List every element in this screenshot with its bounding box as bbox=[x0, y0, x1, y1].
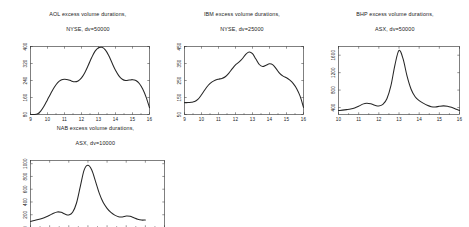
y-tick-label: 80 bbox=[23, 112, 28, 118]
y-tick-label: 450 bbox=[177, 42, 182, 50]
panel-ibm-xticklabels: 910111213141516 bbox=[183, 117, 306, 122]
panel-nab-ticks bbox=[31, 161, 165, 227]
y-tick-label: 1600 bbox=[331, 50, 336, 61]
y-tick-label: 800 bbox=[23, 172, 28, 180]
x-tick-label: 9 bbox=[183, 117, 186, 122]
x-tick-label: 13 bbox=[396, 117, 402, 122]
panel-nab-yticklabels: 02004006008001000 bbox=[23, 158, 28, 227]
panel-aol-axes-frame bbox=[31, 47, 150, 115]
x-tick-label: 11 bbox=[216, 117, 221, 122]
y-tick-label: 1200 bbox=[331, 67, 336, 78]
y-tick-label: 0 bbox=[23, 226, 28, 227]
panel-bhp-yticklabels: 40080012001600 bbox=[331, 50, 336, 112]
panel-aol-series-line bbox=[31, 47, 150, 114]
panel-ibm-yticklabels: 50150250350450 bbox=[177, 42, 182, 117]
panel-nab-title-line1: NAB excess volume durations, bbox=[57, 125, 135, 131]
panel-ibm-title-line1: IBM excess volume durations, bbox=[204, 11, 280, 17]
x-tick-label: 12 bbox=[233, 117, 239, 122]
panel-bhp-plot: 40080012001600 10111213141516 bbox=[314, 40, 466, 132]
y-tick-label: 240 bbox=[23, 76, 28, 84]
y-tick-label: 400 bbox=[23, 42, 28, 50]
x-tick-label: 14 bbox=[417, 117, 423, 122]
x-tick-label: 13 bbox=[250, 117, 256, 122]
y-tick-label: 800 bbox=[331, 86, 336, 94]
panel-bhp-title-line2: ASX, dv=50000 bbox=[375, 26, 415, 32]
y-tick-label: 250 bbox=[177, 76, 182, 84]
x-tick-label: 12 bbox=[376, 117, 382, 122]
panel-bhp-title-line1: BHP excess volume durations, bbox=[356, 11, 434, 17]
panel-ibm: IBM excess volume durations, NYSE, dv=25… bbox=[162, 4, 312, 114]
panel-aol-title-line2: NYSE, dv=50000 bbox=[66, 26, 110, 32]
panel-nab: NAB excess volume durations, ASX, dv=100… bbox=[8, 118, 173, 226]
panel-bhp-svg: 40080012001600 10111213141516 bbox=[314, 40, 466, 132]
x-tick-label: 16 bbox=[457, 117, 463, 122]
x-tick-label: 14 bbox=[267, 117, 273, 122]
panel-nab-axes-frame bbox=[31, 161, 165, 227]
panel-nab-series-line bbox=[31, 165, 146, 221]
panel-ibm-series-line bbox=[185, 52, 304, 107]
panel-bhp-title: BHP excess volume durations, ASX, dv=500… bbox=[314, 4, 466, 40]
panel-ibm-svg: 50150250350450 910111213141516 bbox=[162, 40, 312, 132]
panel-nab-plot: 02004006008001000 1011121314151617 bbox=[8, 154, 173, 227]
y-tick-label: 160 bbox=[23, 93, 28, 101]
x-tick-label: 16 bbox=[301, 117, 307, 122]
panel-ibm-title-line2: NYSE, dv=25000 bbox=[220, 26, 264, 32]
panel-aol-ticks bbox=[31, 47, 150, 115]
y-tick-label: 1000 bbox=[23, 158, 28, 169]
panel-nab-title-line2: ASX, dv=10000 bbox=[76, 140, 116, 146]
y-tick-label: 320 bbox=[23, 59, 28, 67]
y-tick-label: 150 bbox=[177, 93, 182, 101]
x-tick-label: 11 bbox=[356, 117, 361, 122]
x-tick-label: 15 bbox=[437, 117, 443, 122]
y-tick-label: 200 bbox=[23, 210, 28, 218]
figure-canvas: AOL excess volume durations, NYSE, dv=50… bbox=[0, 0, 469, 227]
panel-bhp-series-line bbox=[339, 50, 460, 110]
panel-aol: AOL excess volume durations, NYSE, dv=50… bbox=[8, 4, 158, 114]
y-tick-label: 50 bbox=[177, 112, 182, 118]
y-tick-label: 600 bbox=[23, 185, 28, 193]
panel-bhp: BHP excess volume durations, ASX, dv=500… bbox=[314, 4, 466, 114]
y-tick-label: 400 bbox=[331, 103, 336, 111]
panel-ibm-plot: 50150250350450 910111213141516 bbox=[162, 40, 312, 132]
panel-bhp-xticklabels: 10111213141516 bbox=[336, 117, 463, 122]
x-tick-label: 15 bbox=[284, 117, 290, 122]
panel-nab-svg: 02004006008001000 1011121314151617 bbox=[8, 154, 173, 227]
panel-aol-yticklabels: 80160240320400 bbox=[23, 42, 28, 117]
x-tick-label: 10 bbox=[336, 117, 342, 122]
x-tick-label: 10 bbox=[199, 117, 205, 122]
panel-bhp-axes-frame bbox=[339, 47, 460, 115]
panel-aol-title-line1: AOL excess volume durations, bbox=[49, 11, 126, 17]
panel-ibm-title: IBM excess volume durations, NYSE, dv=25… bbox=[162, 4, 312, 40]
panel-bhp-ticks bbox=[339, 47, 460, 115]
y-tick-label: 400 bbox=[23, 198, 28, 206]
panel-nab-title: NAB excess volume durations, ASX, dv=100… bbox=[8, 118, 173, 154]
y-tick-label: 350 bbox=[177, 59, 182, 67]
panel-aol-title: AOL excess volume durations, NYSE, dv=50… bbox=[8, 4, 158, 40]
